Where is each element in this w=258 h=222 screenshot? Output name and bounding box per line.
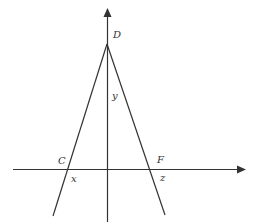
line-DF [107, 44, 165, 215]
label-F: F [156, 154, 165, 165]
label-y: y [111, 90, 118, 101]
geometry-diagram: D y C x F z [0, 0, 258, 222]
label-x: x [71, 173, 77, 184]
label-D: D [112, 29, 121, 40]
line-DC [53, 44, 107, 216]
label-C: C [58, 155, 66, 166]
label-z: z [159, 172, 166, 183]
